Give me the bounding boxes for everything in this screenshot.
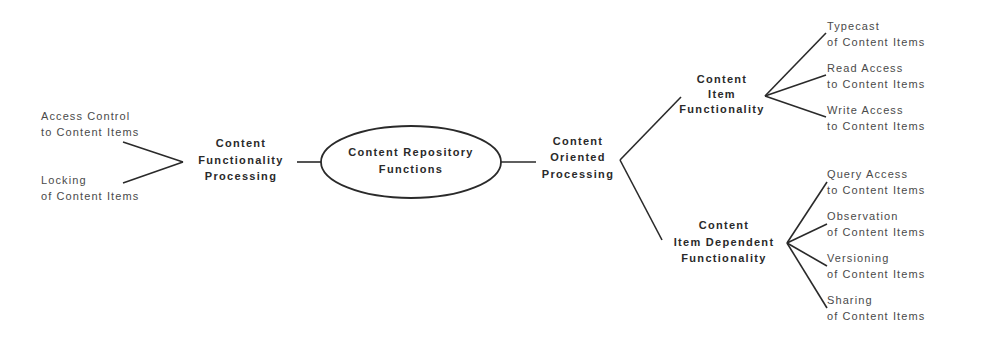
node-content-item-dependent-functionality: Content Item Dependent Functionality bbox=[674, 219, 775, 264]
leaf-sharing: Sharing of Content Items bbox=[827, 294, 925, 322]
center-label: Content Repository bbox=[348, 146, 473, 158]
leaf-label: Typecast bbox=[827, 20, 880, 32]
edge-access-control bbox=[123, 142, 183, 162]
leaf-label: of Content Items bbox=[827, 36, 925, 48]
leaf-label: Observation bbox=[827, 210, 898, 222]
leaf-write-access: Write Access to Content Items bbox=[827, 104, 925, 132]
leaf-label: to Content Items bbox=[41, 126, 139, 138]
leaf-label: of Content Items bbox=[827, 310, 925, 322]
leaf-query-access: Query Access to Content Items bbox=[827, 168, 925, 196]
node-label: Item bbox=[708, 88, 736, 100]
edge-to-item-dependent bbox=[620, 160, 662, 240]
leaf-label: to Content Items bbox=[827, 184, 925, 196]
node-content-repository-functions: Content Repository Functions bbox=[321, 126, 501, 198]
leaf-label: Locking bbox=[41, 174, 87, 186]
center-ellipse bbox=[321, 126, 501, 198]
node-label: Content bbox=[216, 137, 267, 149]
leaf-access-control: Access Control to Content Items bbox=[41, 110, 139, 138]
leaf-label: to Content Items bbox=[827, 78, 925, 90]
leaf-typecast: Typecast of Content Items bbox=[827, 20, 925, 48]
edge-write-access bbox=[765, 96, 826, 117]
leaf-label: Query Access bbox=[827, 168, 908, 180]
edge-versioning bbox=[787, 243, 827, 266]
leaf-label: to Content Items bbox=[827, 120, 925, 132]
leaf-label: of Content Items bbox=[827, 226, 925, 238]
node-label: Processing bbox=[542, 168, 614, 180]
node-label: Content bbox=[697, 73, 748, 85]
leaf-label: Sharing bbox=[827, 294, 873, 306]
node-label: Functionality bbox=[198, 154, 283, 166]
edge-sharing bbox=[787, 243, 827, 308]
content-repository-diagram: Access Control to Content Items Locking … bbox=[0, 0, 981, 352]
leaf-label: of Content Items bbox=[827, 268, 925, 280]
node-label: Functionality bbox=[681, 252, 766, 264]
node-content-item-functionality: Content Item Functionality bbox=[679, 73, 764, 115]
leaf-observation: Observation of Content Items bbox=[827, 210, 925, 238]
center-label: Functions bbox=[379, 163, 443, 175]
node-label: Oriented bbox=[550, 151, 606, 163]
leaf-label: Access Control bbox=[41, 110, 130, 122]
leaf-versioning: Versioning of Content Items bbox=[827, 252, 925, 280]
leaf-label: of Content Items bbox=[41, 190, 139, 202]
edge-locking bbox=[123, 162, 183, 183]
node-content-functionality-processing: Content Functionality Processing bbox=[198, 137, 283, 182]
node-label: Functionality bbox=[679, 103, 764, 115]
node-label: Content bbox=[699, 219, 750, 231]
node-label: Processing bbox=[205, 170, 277, 182]
leaf-read-access: Read Access to Content Items bbox=[827, 62, 925, 90]
node-label: Item Dependent bbox=[674, 236, 775, 248]
node-label: Content bbox=[553, 135, 604, 147]
node-content-oriented-processing: Content Oriented Processing bbox=[542, 135, 614, 180]
leaf-label: Read Access bbox=[827, 62, 903, 74]
leaf-label: Write Access bbox=[827, 104, 904, 116]
leaf-locking: Locking of Content Items bbox=[41, 174, 139, 202]
edge-typecast bbox=[765, 33, 826, 96]
leaf-label: Versioning bbox=[827, 252, 889, 264]
edge-to-item-functionality bbox=[620, 97, 681, 160]
